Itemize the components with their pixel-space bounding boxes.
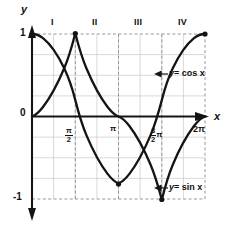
x-tick-3pi-over-2-suffix: π xyxy=(156,131,162,139)
x-tick-pi-over-2-denominator: 2 xyxy=(65,136,73,144)
quadrant-label-ii: II xyxy=(92,18,97,27)
sine-label-rhs: = sin x xyxy=(174,182,202,192)
y-tick-label-minus-1: -1 xyxy=(13,192,22,202)
marker-sin-max xyxy=(73,31,78,36)
y-tick-label-0: 0 xyxy=(20,108,26,118)
y-axis-label: y xyxy=(21,4,27,15)
quadrant-label-i: I xyxy=(51,18,54,27)
x-tick-label-pi: π xyxy=(110,125,116,133)
graph-canvas xyxy=(0,0,229,231)
x-axis-arrow-right xyxy=(195,112,209,121)
marker-cos-start xyxy=(29,31,34,36)
x-tick-label-2pi: 2π xyxy=(193,125,205,134)
marker-cos-min xyxy=(116,181,121,186)
x-tick-label-pi-over-2: π 2 xyxy=(65,120,73,143)
cosine-curve-label: y= cos x xyxy=(169,69,205,78)
cosine-label-rhs: = cos x xyxy=(174,68,205,78)
sine-curve-label: y= sin x xyxy=(169,183,202,192)
y-tick-label-1: 1 xyxy=(20,28,26,38)
quadrant-label-iv: IV xyxy=(178,18,187,27)
cos-label-arrowhead xyxy=(156,72,162,77)
x-axis-label: x xyxy=(214,111,220,122)
trig-graph-figure: y x 1 0 -1 π 2 π 3 2 π 2π I II III IV y=… xyxy=(0,0,229,231)
marker-sin-min xyxy=(159,197,164,202)
marker-cos-end xyxy=(202,31,207,36)
x-tick-label-3pi-over-2: 3 2 π xyxy=(150,120,162,143)
y-axis-arrow-down xyxy=(28,208,36,221)
sin-label-arrowhead xyxy=(156,186,162,191)
quadrant-label-iii: III xyxy=(134,18,142,27)
